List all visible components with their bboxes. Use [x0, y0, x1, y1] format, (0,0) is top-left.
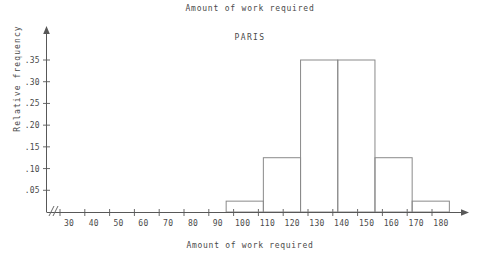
y-tick-label: .05	[25, 186, 40, 195]
y-tick-label: .20	[25, 121, 40, 130]
x-tick-label: 40	[89, 219, 99, 228]
y-tick-label: .35	[25, 56, 40, 65]
x-tick-label: 160	[384, 219, 399, 228]
y-tick-label: .25	[25, 99, 40, 108]
x-tick-label: 50	[113, 219, 123, 228]
x-tick-label: 120	[285, 219, 300, 228]
x-tick-label: 100	[235, 219, 250, 228]
y-tick-label: .10	[25, 165, 40, 174]
histogram-bar	[375, 158, 412, 212]
x-axis-arrow	[461, 209, 469, 216]
histogram-bar	[226, 201, 263, 212]
histogram-bar	[412, 201, 449, 212]
x-tick-label: 180	[433, 219, 448, 228]
plot-area: .05.10.15.20.25.30.35 304050607080901001…	[0, 0, 500, 259]
x-tick-label: 110	[260, 219, 275, 228]
y-tick-label: .15	[25, 143, 40, 152]
histogram-bar	[263, 158, 300, 212]
histogram-chart: Amount of work required PARIS Relative f…	[0, 0, 500, 259]
x-tick-label: 70	[163, 219, 173, 228]
x-tick-label: 130	[309, 219, 324, 228]
x-tick-label: 90	[213, 219, 223, 228]
histogram-bar	[338, 60, 375, 212]
histogram-bar	[301, 60, 338, 212]
x-tick-label: 30	[64, 219, 74, 228]
histogram-bars	[226, 60, 449, 212]
x-tick-label: 80	[188, 219, 198, 228]
x-tick-label: 60	[138, 219, 148, 228]
x-tick-label: 150	[359, 219, 374, 228]
y-tick-label: .30	[25, 78, 40, 87]
y-axis-arrow	[43, 26, 50, 34]
x-tick-label: 170	[409, 219, 424, 228]
x-tick-label: 140	[334, 219, 349, 228]
